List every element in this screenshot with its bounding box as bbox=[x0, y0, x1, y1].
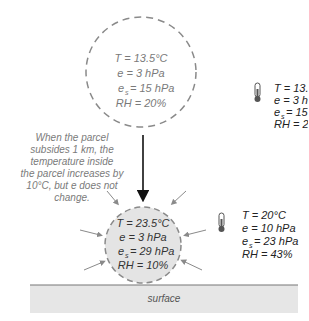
upper-env-temperature: T = 13.5°C bbox=[274, 82, 308, 94]
upper-parcel-temperature: T = 13.5°C bbox=[114, 52, 167, 64]
es-label: e bbox=[118, 82, 124, 94]
annotation-line: change. bbox=[54, 192, 90, 203]
thermometer-icon bbox=[219, 213, 225, 232]
upper-parcel-relative-humidity: RH = 20% bbox=[116, 97, 167, 109]
lower-env-temperature: T = 20°C bbox=[242, 209, 286, 221]
lower-parcel-relative-humidity: RH = 10% bbox=[118, 259, 169, 271]
annotation-line: the parcel increases by bbox=[21, 168, 125, 179]
es-label: e bbox=[242, 235, 248, 247]
es-subscript: s bbox=[125, 252, 129, 259]
upper-env-relative-humidity: RH = 20% bbox=[274, 118, 308, 130]
lower-parcel-vapor-pressure: e = 3 hPa bbox=[119, 231, 166, 243]
es-value: = 15 hPa bbox=[130, 82, 174, 94]
lower-parcel-temperature: T = 23.5°C bbox=[116, 217, 169, 229]
upper-parcel: T = 13.5°C e = 3 hPa e s = 15 hPa RH = 2… bbox=[86, 17, 196, 127]
lower-env-relative-humidity: RH = 43% bbox=[242, 248, 293, 260]
upper-env-vapor-pressure: e = 3 hPa bbox=[274, 94, 308, 106]
thermometer-icon bbox=[255, 83, 261, 102]
es-label: e bbox=[118, 245, 124, 257]
surface: surface bbox=[30, 285, 298, 313]
upper-parcel-vapor-pressure: e = 3 hPa bbox=[117, 67, 164, 79]
surface-label: surface bbox=[148, 293, 181, 304]
annotation-line: temperature inside bbox=[31, 156, 114, 167]
es-subscript: s bbox=[125, 89, 129, 96]
annotation-line: 10°C, but e does not bbox=[26, 180, 119, 191]
annotation-line: subsides 1 km, the bbox=[30, 144, 114, 155]
lower-env-saturation-vapor-pressure: e s = 23 hPa bbox=[242, 235, 298, 249]
es-value: = 15 hPa bbox=[286, 106, 308, 118]
es-value: = 29 hPa bbox=[130, 245, 174, 257]
annotation: When the parcel subsides 1 km, the tempe… bbox=[21, 132, 125, 203]
es-value: = 23 hPa bbox=[254, 235, 298, 247]
lower-env-vapor-pressure: e = 10 hPa bbox=[242, 222, 296, 234]
es-label: e bbox=[274, 106, 280, 118]
lower-environment: T = 20°C e = 10 hPa e s = 23 hPa RH = 43… bbox=[219, 209, 299, 260]
annotation-line: When the parcel bbox=[36, 132, 110, 143]
upper-environment: T = 13.5°C e = 3 hPa e s = 15 hPa RH = 2… bbox=[255, 82, 309, 130]
lower-parcel: T = 23.5°C e = 3 hPa e s = 29 hPa RH = 1… bbox=[105, 207, 181, 283]
